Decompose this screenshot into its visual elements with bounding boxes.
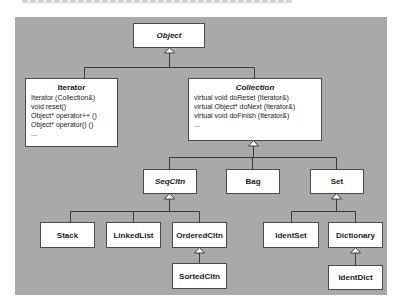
- member: Iterator (Collection&): [31, 93, 117, 102]
- member: virtual Object* doNext (Iterator&): [194, 102, 321, 111]
- class-members: virtual void doReset (Iterator&) virtual…: [189, 93, 321, 129]
- inheritance-arrow-set: [332, 194, 342, 200]
- class-name: IdentDict: [338, 273, 372, 282]
- connector-seqcltn: [71, 198, 200, 222]
- inheritance-arrow-collection: [249, 141, 259, 147]
- class-members: Iterator (Collection&) void reset() Obje…: [26, 93, 117, 138]
- class-box-orderedcltn: OrderedCltn: [172, 222, 227, 248]
- inheritance-arrow-orderedcltn: [195, 248, 205, 254]
- class-name: SortedCltn: [179, 272, 220, 281]
- inheritance-arrow-object: [165, 48, 175, 54]
- class-box-set: Set: [310, 169, 364, 194]
- class-name: OrderedCltn: [176, 231, 223, 240]
- class-box-stack: Stack: [40, 222, 95, 248]
- member: Object* operator() (): [31, 120, 117, 129]
- class-name: Collection: [189, 83, 321, 92]
- member: virtual void doFinish (Iterator&): [194, 111, 321, 120]
- connector-collection: [170, 145, 337, 169]
- member: Object* operator++ (): [31, 111, 117, 120]
- connector-object: [85, 52, 255, 78]
- member: ...: [31, 129, 117, 138]
- class-box-identset: IdentSet: [263, 222, 319, 248]
- class-name: Iterator: [26, 83, 117, 92]
- class-box-linkedlist: LinkedList: [106, 222, 161, 248]
- class-box-iterator: Iterator Iterator (Collection&) void res…: [25, 78, 118, 147]
- class-name: LinkedList: [113, 231, 153, 240]
- class-box-seqcltn: SeqCltn: [143, 169, 197, 194]
- class-name: Object: [157, 31, 182, 40]
- class-name: Stack: [57, 231, 78, 240]
- class-name: Dictionary: [336, 231, 375, 240]
- member: void reset(): [31, 102, 117, 111]
- class-name: Bag: [245, 177, 260, 186]
- inheritance-arrow-seqcltn: [165, 194, 175, 200]
- connector-set: [292, 198, 356, 222]
- member: virtual void doReset (Iterator&): [194, 93, 321, 102]
- class-box-bag: Bag: [226, 169, 280, 194]
- class-box-object: Object: [133, 23, 205, 48]
- class-name: IdentSet: [275, 231, 307, 240]
- class-box-dictionary: Dictionary: [328, 222, 383, 248]
- member: ...: [194, 120, 321, 129]
- class-box-sortedcltn: SortedCltn: [172, 263, 227, 289]
- class-name: SeqCltn: [155, 177, 185, 186]
- inheritance-arrow-dictionary: [351, 248, 361, 254]
- class-box-collection: Collection virtual void doReset (Iterato…: [188, 78, 322, 141]
- class-name: Set: [331, 177, 343, 186]
- class-box-identdict: IdentDict: [328, 265, 383, 290]
